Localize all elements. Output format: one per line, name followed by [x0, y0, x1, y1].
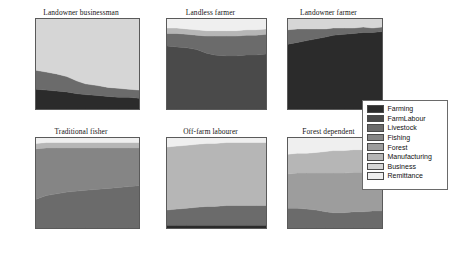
- y-tick-mark: [166, 210, 167, 211]
- plot-area-5: 020406080100200020242050: [166, 137, 267, 229]
- y-tick-mark: [35, 55, 36, 56]
- area-farming: [288, 32, 382, 109]
- panel-title: Off-farm labourer: [150, 127, 271, 136]
- y-tick-mark: [287, 109, 288, 110]
- x-tick-mark: [139, 228, 140, 229]
- x-tick-mark: [167, 228, 168, 229]
- y-tick-mark: [166, 19, 167, 20]
- x-tick-mark: [333, 109, 334, 110]
- plot-area-3: 020406080100200020242050: [287, 18, 383, 110]
- y-tick-mark: [35, 109, 36, 110]
- x-tick-mark: [215, 109, 216, 110]
- y-tick-mark: [287, 19, 288, 20]
- y-tick-mark: [35, 138, 36, 139]
- area-remittance: [36, 138, 139, 143]
- y-tick-mark: [35, 156, 36, 157]
- y-tick-mark: [166, 192, 167, 193]
- panel-title: Landowner farmer: [270, 8, 387, 17]
- y-tick-mark: [166, 174, 167, 175]
- legend-label: Fishing: [388, 134, 411, 141]
- x-tick-mark: [85, 228, 86, 229]
- y-tick-mark: [287, 192, 288, 193]
- panel-title: Landowner businessman: [18, 8, 144, 17]
- y-tick-mark: [287, 156, 288, 157]
- legend: FarmingFarmLabourLivestockFishingForestM…: [362, 100, 448, 190]
- legend-swatch-icon: [367, 134, 384, 142]
- legend-label: Business: [388, 163, 416, 170]
- legend-swatch-icon: [367, 115, 384, 123]
- panel-title: Traditional fisher: [18, 127, 144, 136]
- y-tick-mark: [287, 55, 288, 56]
- y-tick-mark: [35, 210, 36, 211]
- legend-item[interactable]: Farming: [367, 104, 443, 114]
- legend-swatch-icon: [367, 172, 384, 180]
- legend-swatch-icon: [367, 153, 384, 161]
- legend-item[interactable]: FarmLabour: [367, 114, 443, 124]
- area-farmlabour: [167, 46, 266, 109]
- y-tick-mark: [166, 228, 167, 229]
- y-tick-mark: [35, 174, 36, 175]
- x-tick-mark: [85, 109, 86, 110]
- x-tick-mark: [36, 228, 37, 229]
- y-tick-mark: [287, 210, 288, 211]
- x-tick-mark: [167, 109, 168, 110]
- x-tick-mark: [333, 228, 334, 229]
- y-tick-mark: [166, 73, 167, 74]
- legend-label: FarmLabour: [388, 115, 426, 122]
- legend-item[interactable]: Fishing: [367, 133, 443, 143]
- legend-item[interactable]: Livestock: [367, 123, 443, 133]
- y-tick-mark: [166, 91, 167, 92]
- figure-panel-grid: Landowner businessman0204060801002000202…: [0, 0, 451, 261]
- plot-area-4: 020406080100200020242050: [35, 137, 140, 229]
- area-farming: [167, 225, 266, 228]
- legend-item[interactable]: Forest: [367, 142, 443, 152]
- legend-swatch-icon: [367, 163, 384, 171]
- legend-label: Livestock: [388, 124, 417, 131]
- y-tick-mark: [35, 228, 36, 229]
- legend-item[interactable]: Business: [367, 162, 443, 172]
- x-tick-mark: [36, 109, 37, 110]
- legend-label: Farming: [388, 105, 414, 112]
- area-manufacturing: [167, 143, 266, 211]
- panel-title: Landless farmer: [150, 8, 271, 17]
- legend-label: Remittance: [388, 172, 423, 179]
- legend-label: Forest: [388, 144, 408, 151]
- y-tick-mark: [35, 91, 36, 92]
- y-tick-mark: [35, 73, 36, 74]
- y-tick-mark: [287, 73, 288, 74]
- legend-swatch-icon: [367, 124, 384, 132]
- area-manufacturing: [36, 143, 139, 149]
- plot-area-1: 020406080100200020242050: [35, 18, 140, 110]
- legend-label: Manufacturing: [388, 153, 432, 160]
- x-tick-mark: [139, 109, 140, 110]
- plot-area-2: 020406080100200020242050: [166, 18, 267, 110]
- x-tick-mark: [288, 228, 289, 229]
- x-tick-mark: [266, 109, 267, 110]
- y-tick-mark: [287, 138, 288, 139]
- y-tick-mark: [287, 174, 288, 175]
- x-tick-mark: [288, 109, 289, 110]
- y-tick-mark: [166, 109, 167, 110]
- y-tick-mark: [35, 192, 36, 193]
- y-tick-mark: [287, 37, 288, 38]
- x-tick-mark: [266, 228, 267, 229]
- legend-item[interactable]: Manufacturing: [367, 152, 443, 162]
- y-tick-mark: [166, 156, 167, 157]
- x-tick-mark: [215, 228, 216, 229]
- legend-swatch-icon: [367, 105, 384, 113]
- y-tick-mark: [287, 91, 288, 92]
- x-tick-mark: [382, 228, 383, 229]
- y-tick-mark: [166, 138, 167, 139]
- y-tick-mark: [35, 37, 36, 38]
- y-tick-mark: [287, 228, 288, 229]
- y-tick-mark: [166, 37, 167, 38]
- legend-swatch-icon: [367, 143, 384, 151]
- y-tick-mark: [35, 19, 36, 20]
- y-tick-mark: [166, 55, 167, 56]
- legend-item[interactable]: Remittance: [367, 171, 443, 181]
